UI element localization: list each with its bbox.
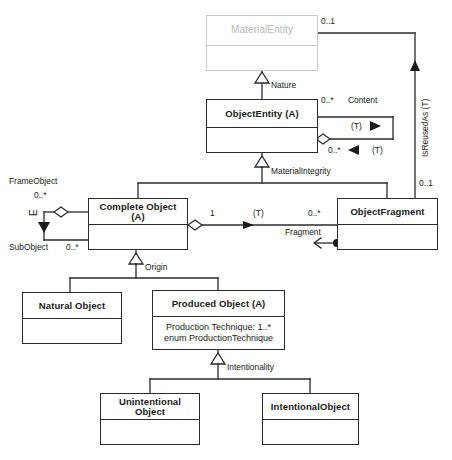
class-box-complete-object[interactable]: Complete Object (A) — [88, 198, 188, 250]
label-is-reused-as: IsReusedAs (T) — [421, 99, 429, 157]
label-sub-object: SubObject — [9, 243, 48, 251]
label-content-role-bottom: (T) — [372, 146, 383, 154]
class-attrs-material-entity — [207, 46, 317, 70]
class-name-produced-object: Produced Object (A) — [153, 291, 284, 317]
relation-origin — [70, 250, 218, 292]
class-name-intentional-object: IntentionalObject — [263, 394, 358, 420]
relation-frame-sub-object — [38, 207, 88, 240]
mult-content-bottom: 0..* — [328, 146, 341, 154]
label-material-integrity: MaterialIntegrity — [271, 167, 331, 175]
attr-enum-production-technique: enum ProductionTechnique — [164, 333, 273, 344]
class-name-unintentional-object: Unintentional Object — [101, 394, 199, 420]
class-attrs-complete-object — [89, 225, 187, 249]
mult-object-fragment-top: 0..1 — [419, 179, 433, 187]
label-frame-object: FrameObject — [9, 177, 57, 185]
class-box-natural-object[interactable]: Natural Object — [22, 292, 122, 344]
mult-material-entity-right: 0..1 — [321, 17, 335, 25]
class-box-object-entity[interactable]: ObjectEntity (A) — [206, 99, 318, 153]
class-name-natural-object: Natural Object — [23, 293, 121, 319]
relation-nature — [255, 71, 269, 99]
class-name-object-fragment: ObjectFragment — [338, 199, 437, 225]
label-nature: Nature — [271, 81, 296, 89]
relation-material-integrity — [138, 153, 387, 198]
label-content-role-top: (T) — [351, 122, 362, 130]
mult-sub-object: 0..* — [66, 243, 79, 251]
class-attrs-object-entity — [207, 128, 317, 152]
class-attrs-unintentional-object — [101, 420, 199, 444]
class-box-intentional-object[interactable]: IntentionalObject — [262, 393, 359, 445]
class-attrs-intentional-object — [263, 420, 358, 444]
class-attrs-object-fragment — [338, 225, 437, 249]
mult-frame-object: 0..* — [34, 191, 47, 199]
mult-object-fragment-tgt: 0..* — [308, 209, 321, 217]
class-attrs-natural-object — [23, 319, 121, 343]
label-fragment: Fragment — [285, 228, 321, 236]
mult-complete-object-fragment-src: 1 — [210, 209, 215, 217]
class-name-object-entity: ObjectEntity (A) — [207, 100, 317, 128]
class-box-object-fragment[interactable]: ObjectFragment — [337, 198, 438, 250]
label-fragment-role: (T) — [253, 209, 264, 217]
class-box-produced-object[interactable]: Produced Object (A) Production Technique… — [152, 290, 285, 350]
relation-is-reused-as — [318, 33, 420, 198]
label-origin: Origin — [145, 263, 167, 271]
uml-class-diagram: MaterialEntity ObjectEntity (A) Complete… — [0, 0, 452, 460]
attr-production-technique: Production Technique: 1..* — [166, 322, 271, 333]
label-content: Content — [348, 96, 377, 104]
label-intentionality: Intentionality — [227, 363, 274, 371]
class-box-unintentional-object[interactable]: Unintentional Object — [100, 393, 200, 445]
class-attrs-produced-object: Production Technique: 1..* enum Producti… — [153, 317, 284, 349]
class-box-material-entity[interactable]: MaterialEntity — [206, 15, 318, 71]
class-name-material-entity: MaterialEntity — [207, 16, 317, 46]
class-name-complete-object: Complete Object (A) — [89, 199, 187, 225]
label-frame-sub-role: E — [29, 209, 39, 216]
mult-content-top: 0..* — [321, 96, 334, 104]
